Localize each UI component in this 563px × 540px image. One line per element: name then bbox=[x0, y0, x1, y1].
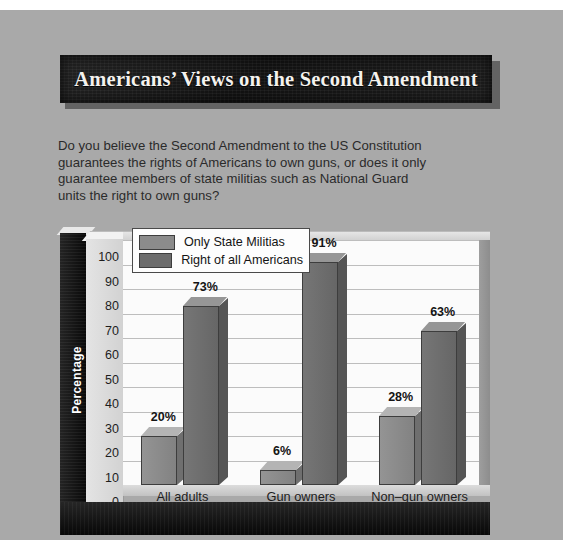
bar-gun-owners-1 bbox=[260, 470, 296, 485]
question-line-1: Do you believe the Second Amendment to t… bbox=[58, 138, 478, 155]
value-label: 28% bbox=[377, 390, 425, 404]
y-tick-70: 70 bbox=[87, 324, 119, 338]
y-axis-title: Percentage bbox=[70, 330, 84, 430]
bar-front-face bbox=[421, 331, 457, 485]
banner-plate: Americans’ Views on the Second Amendment bbox=[60, 55, 492, 103]
page-title: Americans’ Views on the Second Amendment bbox=[74, 68, 477, 91]
bar-side-face bbox=[338, 254, 347, 485]
y-tick-30: 30 bbox=[87, 422, 119, 436]
bar-non-gun-owners-2 bbox=[421, 331, 457, 485]
bar-non-gun-owners-1 bbox=[379, 416, 415, 485]
gridline bbox=[123, 289, 479, 290]
plot-area: 20%73%6%91%28%63% bbox=[123, 240, 480, 485]
value-label: 6% bbox=[258, 444, 306, 458]
bottom-band: View bbox=[60, 502, 490, 535]
legend-label: Only State Militias bbox=[184, 235, 285, 249]
poster-page: Americans’ Views on the Second Amendment… bbox=[0, 10, 563, 540]
legend-swatch bbox=[139, 253, 172, 268]
y-tick-90: 90 bbox=[87, 275, 119, 289]
y-tick-40: 40 bbox=[87, 397, 119, 411]
value-label: 73% bbox=[181, 280, 229, 294]
y-tick-50: 50 bbox=[87, 373, 119, 387]
chart-legend: Only State MilitiasRight of all American… bbox=[132, 228, 310, 273]
y-tick-20: 20 bbox=[87, 446, 119, 460]
bar-all-adults-1 bbox=[141, 436, 177, 485]
title-banner: Americans’ Views on the Second Amendment bbox=[60, 55, 500, 109]
bar-front-face bbox=[183, 306, 219, 485]
question-line-2: guarantees the rights of Americans to ow… bbox=[58, 155, 478, 172]
question-line-3: guarantee members of state militias such… bbox=[58, 171, 478, 188]
right-wall bbox=[479, 240, 490, 486]
y-tick-60: 60 bbox=[87, 348, 119, 362]
bar-front-face bbox=[141, 436, 177, 485]
bar-all-adults-2 bbox=[183, 306, 219, 485]
y-tick-80: 80 bbox=[87, 299, 119, 313]
legend-swatch bbox=[139, 235, 175, 250]
value-label: 63% bbox=[419, 305, 467, 319]
y-tick-10: 10 bbox=[87, 471, 119, 485]
bar-front-face bbox=[260, 470, 296, 485]
legend-label: Right of all Americans bbox=[181, 253, 303, 267]
bar-front-face bbox=[379, 416, 415, 485]
y-tick-100: 100 bbox=[87, 250, 119, 264]
bar-front-face bbox=[302, 262, 338, 485]
bar-chart: Percentage 1009080706050403020100 20%73%… bbox=[60, 221, 490, 535]
question-line-4: units the right to own guns? bbox=[58, 188, 478, 205]
survey-question: Do you believe the Second Amendment to t… bbox=[58, 138, 478, 204]
legend-item: Only State Militias bbox=[139, 233, 303, 251]
bar-side-face bbox=[219, 298, 228, 485]
left-wall-panel: Percentage bbox=[60, 233, 86, 535]
legend-item: Right of all Americans bbox=[139, 251, 303, 269]
bar-gun-owners-2 bbox=[302, 262, 338, 485]
y-axis-tick-strip: 1009080706050403020100 bbox=[86, 239, 124, 502]
bar-side-face bbox=[457, 323, 466, 485]
value-label: 20% bbox=[139, 410, 187, 424]
